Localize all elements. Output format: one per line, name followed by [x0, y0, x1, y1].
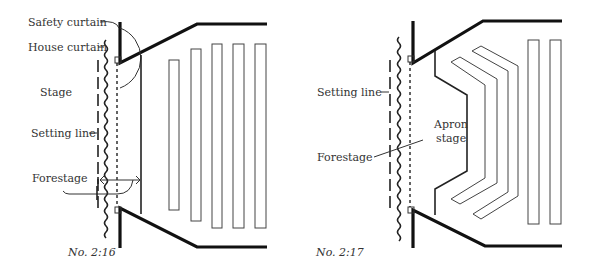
scenery-flat	[169, 60, 179, 210]
house-curtain	[105, 40, 108, 238]
label-stage: Stage	[40, 86, 72, 99]
label-setting-line: Setting line	[317, 86, 382, 99]
label-setting-line: Setting line	[31, 127, 96, 140]
label-apron-stage: stage	[436, 132, 466, 145]
scenery-flat	[191, 49, 201, 221]
house-curtain	[398, 37, 401, 241]
label-house-curtain: House curtain	[28, 41, 107, 54]
diagram-2-17: Setting line Forestage Apron stage No. 2…	[315, 21, 562, 259]
caption-2-17: No. 2:17	[315, 246, 364, 259]
diagram-2-16: Safety curtain House curtain Stage Setti…	[28, 16, 267, 259]
label-forestage: Forestage	[32, 172, 88, 185]
scenery-flat	[212, 44, 222, 228]
scenery-flat	[233, 44, 244, 228]
label-safety-curtain: Safety curtain	[28, 16, 107, 29]
proscenium-wall-bottom	[413, 210, 562, 248]
forestage-leader	[374, 140, 423, 157]
stage-diagrams: Safety curtain House curtain Stage Setti…	[0, 0, 591, 271]
caption-2-16: No. 2:16	[67, 246, 116, 259]
scenery-flat	[528, 40, 539, 224]
scenery-flat	[550, 40, 561, 224]
label-apron: Apron	[433, 118, 468, 131]
label-forestage: Forestage	[317, 151, 373, 164]
scenery-flat	[255, 44, 266, 228]
